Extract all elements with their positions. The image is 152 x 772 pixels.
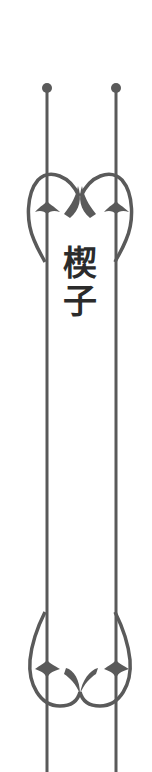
top-center-leaf-right: [80, 186, 96, 218]
right-finial-dot: [111, 83, 121, 93]
top-left-leaf: [35, 200, 60, 214]
chapter-title: 楔 子: [56, 244, 104, 320]
bottom-right-leaf: [104, 660, 129, 678]
title-char-2: 子: [63, 282, 97, 320]
bottom-center-leaf-left: [64, 668, 80, 694]
left-finial-dot: [42, 83, 52, 93]
bottom-center-leaf-right: [80, 668, 98, 694]
vertical-scroll-ornament-icon: [0, 0, 152, 772]
bottom-left-leaf: [35, 660, 60, 678]
top-center-leaf-left: [64, 186, 80, 218]
title-char-1: 楔: [63, 244, 97, 282]
top-right-leaf: [104, 200, 129, 214]
